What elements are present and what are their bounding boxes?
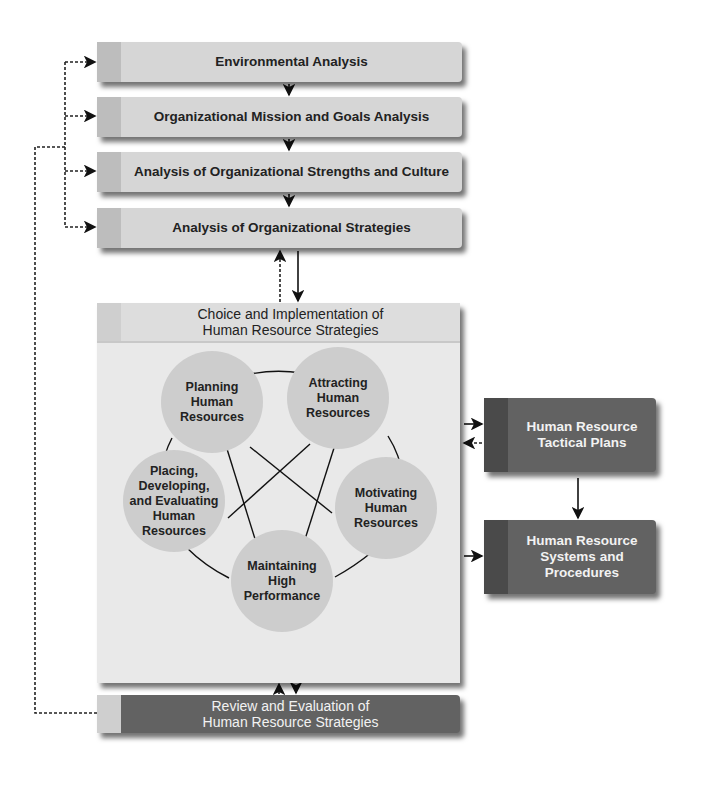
box-label-line: Review and Evaluation of <box>203 698 379 714</box>
circle-text: Resources <box>130 524 219 539</box>
circle-text: Planning <box>180 380 244 395</box>
review-evaluation-box: Review and Evaluation of Human Resource … <box>97 695 460 733</box>
circle-text: Resources <box>354 516 418 531</box>
box-label-line: Human Resource Strategies <box>203 714 379 730</box>
box-label-line: Systems and <box>526 549 637 565</box>
circle-placing-developing-evaluating: Placing, Developing, and Evaluating Huma… <box>123 450 225 552</box>
circle-text: Human <box>180 395 244 410</box>
circle-text: Motivating <box>354 486 418 501</box>
box-label: Review and Evaluation of Human Resource … <box>121 695 460 733</box>
circle-text: Performance <box>244 589 320 604</box>
circle-text: Placing, <box>130 464 219 479</box>
circle-text: Human <box>130 509 219 524</box>
box-label: Human Resource Systems and Procedures <box>508 520 656 594</box>
box-label-line: Procedures <box>526 565 637 581</box>
tactical-plans-box: Human Resource Tactical Plans <box>484 398 656 472</box>
circle-text: Human <box>354 501 418 516</box>
circle-text: Developing, <box>130 479 219 494</box>
box-label: Human Resource Tactical Plans <box>508 398 656 472</box>
circle-attracting-human-resources: Attracting Human Resources <box>287 347 389 449</box>
circle-text: Human <box>306 391 370 406</box>
circle-planning-human-resources: Planning Human Resources <box>161 351 263 453</box>
box-tab <box>484 520 508 594</box>
box-label-line: Human Resource <box>526 533 637 549</box>
systems-procedures-box: Human Resource Systems and Procedures <box>484 520 656 594</box>
circle-motivating-human-resources: Motivating Human Resources <box>335 457 437 559</box>
box-label-line: Human Resource <box>526 419 637 435</box>
circle-text: High <box>244 574 320 589</box>
box-tab <box>97 695 121 733</box>
circle-text: Resources <box>180 410 244 425</box>
circle-maintaining-high-performance: Maintaining High Performance <box>231 530 333 632</box>
circle-text: Maintaining <box>244 559 320 574</box>
circle-text: and Evaluating <box>130 494 219 509</box>
box-label-line: Tactical Plans <box>526 435 637 451</box>
circle-text: Resources <box>306 406 370 421</box>
circle-text: Attracting <box>306 376 370 391</box>
box-tab <box>484 398 508 472</box>
